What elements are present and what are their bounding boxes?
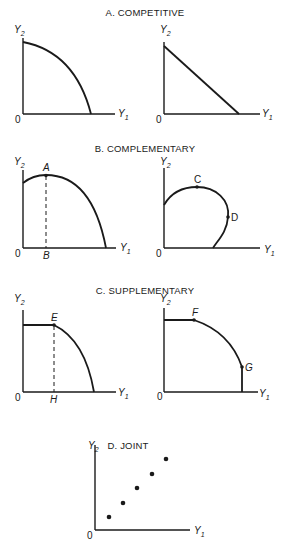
origin-label: 0	[15, 392, 21, 403]
origin-label: 0	[15, 114, 21, 125]
origin-label: 0	[87, 530, 93, 541]
subplot-competitive-linear: Y2 0 Y1	[156, 24, 273, 125]
subplot-competitive-concave: Y2 0 Y1	[14, 24, 129, 125]
y-axis-label: Y2	[14, 156, 25, 169]
axis-mark-b-label: B	[43, 250, 50, 261]
pp-curve	[23, 175, 106, 248]
pp-curve	[164, 320, 242, 392]
subplot-complementary-peak: A B Y2 0 Y1	[14, 156, 131, 261]
subplot-complementary-loop: C D Y2 0 Y1	[156, 156, 275, 259]
y-axis-label: Y2	[88, 440, 99, 453]
y-axis-label: Y2	[14, 293, 25, 306]
panel-complementary: B. COMPLEMENTARY A B Y2 0 Y1 C D Y2 0 Y1	[14, 143, 275, 261]
point-g-label: G	[245, 362, 253, 373]
panel-supplementary: C. SUPPLEMENTARY E H Y2 0 Y1 F G Y2 0 Y1	[14, 285, 270, 405]
y-axis-label: Y2	[160, 24, 171, 37]
panel-competitive: A. COMPETITIVE Y2 0 Y1 Y2 0 Y1	[14, 7, 273, 125]
joint-point	[107, 515, 112, 520]
x-axis-label: Y1	[262, 108, 273, 121]
y-axis-label: Y2	[160, 156, 171, 169]
pp-curve	[23, 325, 94, 392]
point-a	[44, 174, 48, 178]
axis-mark-h-label: H	[50, 394, 58, 405]
origin-label: 0	[15, 248, 21, 259]
x-axis-label: Y1	[259, 388, 270, 401]
pp-curve	[164, 187, 228, 248]
point-a-label: A	[42, 162, 50, 173]
y-axis-label: Y2	[14, 24, 25, 37]
subplot-supplementary-left: E H Y2 0 Y1	[14, 293, 129, 405]
point-e-label: E	[51, 312, 58, 323]
point-f	[192, 318, 196, 322]
panel-title: D. JOINT	[107, 440, 148, 451]
point-f-label: F	[192, 307, 199, 318]
pp-line	[164, 46, 239, 114]
point-d	[226, 215, 230, 219]
subplot-joint: Y2 0 Y1	[87, 440, 205, 541]
x-axis-label: Y1	[118, 108, 129, 121]
joint-point	[150, 472, 155, 477]
origin-label: 0	[157, 391, 163, 402]
point-d-label: D	[231, 212, 238, 223]
joint-point	[164, 457, 169, 462]
x-axis-label: Y1	[264, 244, 275, 257]
panel-title: B. COMPLEMENTARY	[95, 143, 196, 154]
joint-point	[121, 501, 126, 506]
point-c-label: C	[194, 174, 201, 185]
x-axis-label: Y1	[118, 387, 129, 400]
x-axis-label: Y1	[120, 242, 131, 255]
joint-point	[135, 486, 140, 491]
pp-curve	[23, 42, 91, 114]
point-e	[52, 323, 56, 327]
subplot-supplementary-right: F G Y2 0 Y1	[157, 293, 270, 402]
panel-title: A. COMPETITIVE	[106, 7, 185, 18]
point-c	[195, 185, 199, 189]
x-axis-label: Y1	[194, 525, 205, 538]
origin-label: 0	[156, 114, 162, 125]
panel-title: C. SUPPLEMENTARY	[96, 285, 195, 296]
origin-label: 0	[156, 248, 162, 259]
production-possibility-diagram: A. COMPETITIVE Y2 0 Y1 Y2 0 Y1 B. COMPLE…	[0, 0, 285, 548]
panel-joint: D. JOINT Y2 0 Y1	[87, 440, 205, 541]
point-g	[240, 365, 244, 369]
